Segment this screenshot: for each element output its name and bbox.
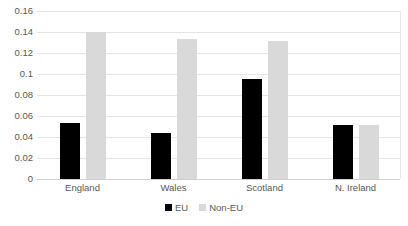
y-axis-tick-label: 0.16 [0, 6, 33, 16]
y-axis-tick-label: 0.1 [0, 69, 33, 79]
y-axis-tick-label: 0.14 [0, 27, 33, 37]
legend-label: Non-EU [209, 203, 243, 213]
y-axis-tick-label: 0 [0, 174, 33, 184]
bar-eu-scotland [242, 79, 262, 179]
x-axis-tick-label: N. Ireland [310, 181, 401, 195]
chart-legend: EUNon-EU [0, 203, 408, 213]
bar-noneu-nireland [359, 125, 379, 179]
x-axis: EnglandWalesScotlandN. Ireland [37, 181, 401, 199]
legend-swatch-icon [165, 204, 172, 211]
bar-eu-england [60, 123, 80, 179]
bar-noneu-scotland [268, 41, 288, 179]
y-axis-tick-label: 0.02 [0, 153, 33, 163]
x-axis-tick-label: England [37, 181, 128, 195]
y-axis-tick-label: 0.04 [0, 132, 33, 142]
bar-eu-wales [151, 133, 171, 179]
x-axis-tick-label: Wales [128, 181, 219, 195]
y-axis-tick-label: 0.08 [0, 90, 33, 100]
bar-eu-nireland [333, 125, 353, 179]
y-axis: 0.160.140.120.10.080.060.040.020 [0, 0, 33, 190]
bars-layer [37, 11, 401, 179]
x-axis-tick-label: Scotland [219, 181, 310, 195]
bar-chart: 0.160.140.120.10.080.060.040.020 England… [0, 0, 408, 226]
y-axis-tick-label: 0.12 [0, 48, 33, 58]
legend-label: EU [175, 203, 188, 213]
legend-swatch-icon [199, 204, 206, 211]
legend-item-eu[interactable]: EU [165, 203, 188, 213]
bar-noneu-england [86, 32, 106, 179]
gridline [37, 179, 400, 180]
y-axis-tick-label: 0.06 [0, 111, 33, 121]
legend-item-noneu[interactable]: Non-EU [199, 203, 243, 213]
bar-noneu-wales [177, 39, 197, 179]
